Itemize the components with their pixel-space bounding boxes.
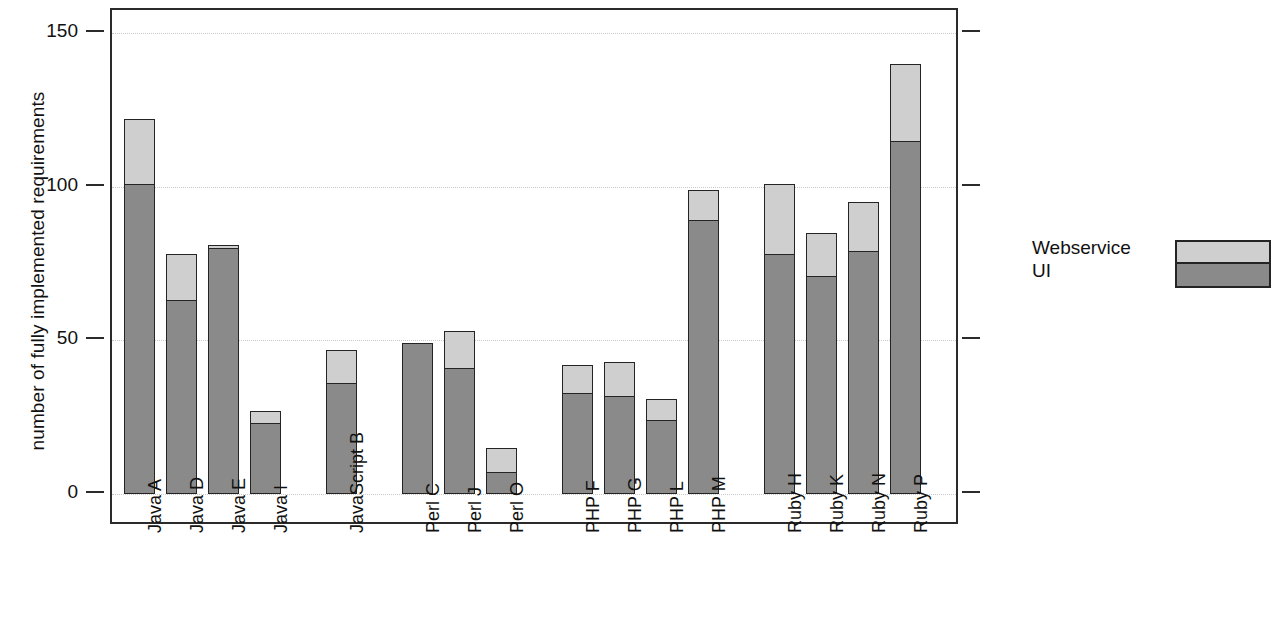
x-axis-tick-label: PHP M [709, 476, 730, 533]
bar-segment-ui [806, 276, 837, 494]
bar-segment-webservice [848, 202, 879, 253]
bar-segment-webservice [604, 362, 635, 397]
x-axis-tick-label: Java D [187, 477, 208, 533]
y-axis-tick-mark [86, 184, 104, 186]
y-axis-tick-mark [86, 337, 104, 339]
bar-segment-webservice [562, 365, 593, 394]
bar [646, 399, 677, 494]
x-axis-tick-label: Ruby N [869, 473, 890, 533]
x-axis-tick-label: Java A [145, 479, 166, 533]
legend-label-group: Webservice UI [1032, 236, 1131, 282]
bar [444, 331, 475, 494]
bar-segment-ui [402, 343, 433, 494]
bar [402, 343, 433, 494]
right-axis-tick-mark [962, 337, 980, 339]
bar [604, 362, 635, 494]
x-axis-tick-label: PHP F [583, 480, 604, 533]
bar [848, 202, 879, 494]
bar-segment-webservice [764, 184, 795, 256]
legend-swatch-webservice [1177, 242, 1269, 264]
y-axis-tick-label: 100 [34, 174, 78, 196]
bar-segment-ui [764, 254, 795, 494]
y-axis-title: number of fully implemented requirements [27, 21, 49, 521]
bar-segment-ui [124, 184, 155, 494]
x-axis-tick-label: Perl O [507, 482, 528, 533]
bar [688, 190, 719, 494]
bar [250, 411, 281, 494]
chart-legend: Webservice UI [1032, 236, 1241, 300]
legend-key-swatch [1175, 240, 1271, 288]
x-axis-tick-label: Ruby P [911, 474, 932, 533]
bar-segment-ui [166, 300, 197, 494]
x-axis-tick-label: Ruby K [827, 474, 848, 533]
bar-segment-webservice [326, 350, 357, 385]
bar-segment-ui [250, 423, 281, 494]
bar-segment-ui [208, 248, 239, 494]
x-axis-tick-label: Ruby H [785, 473, 806, 533]
bar [890, 64, 921, 494]
bar [208, 245, 239, 494]
bar-segment-webservice [688, 190, 719, 222]
bar [562, 365, 593, 494]
legend-label-ui: UI [1032, 259, 1131, 282]
bar [764, 184, 795, 494]
legend-swatch-ui [1177, 264, 1269, 286]
x-axis-tick-label: JavaScript B [347, 432, 368, 533]
y-axis-tick-mark [86, 491, 104, 493]
bars-area [112, 10, 956, 522]
right-axis-tick-mark [962, 491, 980, 493]
bar-segment-webservice [890, 64, 921, 142]
y-axis-tick-mark [86, 30, 104, 32]
bar-segment-ui [444, 368, 475, 494]
right-axis-tick-mark [962, 184, 980, 186]
bar-segment-webservice [486, 448, 517, 474]
x-axis-tick-label: Perl J [465, 487, 486, 533]
bar-segment-ui [562, 393, 593, 494]
y-axis-tick-label: 0 [34, 481, 78, 503]
right-axis-tick-mark [962, 30, 980, 32]
x-axis-tick-label: Java E [229, 478, 250, 533]
bar-segment-ui [848, 251, 879, 494]
bar-segment-webservice [166, 254, 197, 302]
bar-segment-ui [890, 141, 921, 494]
bar [806, 233, 837, 494]
bar [124, 119, 155, 494]
bar-segment-ui [688, 220, 719, 494]
bar-segment-webservice [444, 331, 475, 369]
x-axis-tick-label: Perl C [423, 483, 444, 533]
bar-segment-webservice [806, 233, 837, 278]
legend-label-webservice: Webservice [1032, 236, 1131, 259]
y-axis-tick-label: 150 [34, 20, 78, 42]
x-axis-tick-label: PHP L [667, 481, 688, 533]
bar [166, 254, 197, 494]
plot-panel [110, 8, 958, 524]
y-axis-tick-label: 50 [34, 327, 78, 349]
x-axis-tick-label: Java I [271, 485, 292, 533]
x-axis-tick-label: PHP G [625, 477, 646, 533]
bar-segment-webservice [646, 399, 677, 422]
bar-segment-webservice [124, 119, 155, 185]
